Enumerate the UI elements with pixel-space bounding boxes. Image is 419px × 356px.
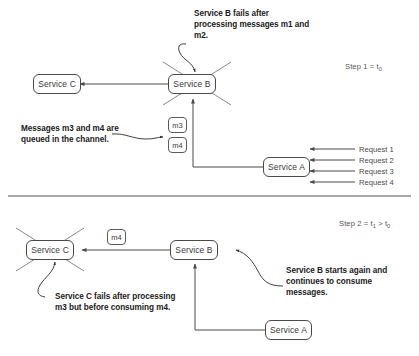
request-label-1: Request 1 — [359, 145, 394, 154]
message-box-m4-step2[interactable]: m4 — [107, 229, 126, 245]
leader-servicec-fail — [38, 262, 55, 297]
edge-servicea-to-serviceb-step2 — [195, 264, 265, 330]
request-label-4: Request 4 — [359, 178, 394, 187]
edges-requests-to-servicea — [310, 149, 355, 182]
node-service-b-step1[interactable]: Service B — [168, 74, 216, 94]
annotation-messages-queued: Messages m3 and m4 are queued in the cha… — [21, 124, 121, 146]
request-label-2: Request 2 — [359, 156, 394, 165]
annotation-servicec-fail: Service C fails after processing m3 but … — [55, 292, 177, 314]
step-1-label: Step 1 = t0 — [345, 62, 382, 71]
message-label: m4 — [111, 233, 121, 242]
node-label: Service A — [268, 162, 305, 172]
message-box-m3[interactable]: m3 — [168, 117, 187, 133]
node-label: Service C — [31, 245, 69, 255]
node-service-a-step2[interactable]: Service A — [265, 320, 312, 340]
message-label: m4 — [172, 141, 182, 150]
message-label: m3 — [172, 121, 182, 130]
annotation-serviceb-fail: Service B fails after processing message… — [194, 9, 312, 41]
node-label: Service B — [175, 245, 212, 255]
node-service-b-step2[interactable]: Service B — [170, 240, 218, 260]
node-service-c-step2[interactable]: Service C — [26, 240, 74, 260]
request-label-3: Request 3 — [359, 167, 394, 176]
node-service-c-step1[interactable]: Service C — [33, 74, 81, 94]
node-label: Service C — [38, 79, 76, 89]
leader-serviceb-restart — [236, 250, 283, 286]
node-label: Service A — [270, 325, 307, 335]
diagram-canvas: Step 1 = t0 Service C Service B Service … — [0, 0, 419, 356]
annotation-serviceb-restart: Service B starts again and continues to … — [286, 266, 404, 298]
step-2-label: Step 2 = t1 > t0 — [339, 219, 390, 228]
node-service-a-step1[interactable]: Service A — [263, 157, 310, 177]
edge-servicea-to-serviceb — [193, 99, 263, 167]
message-box-m4-step1[interactable]: m4 — [168, 137, 187, 153]
node-label: Service B — [173, 79, 210, 89]
leader-serviceb-fail — [179, 44, 195, 72]
